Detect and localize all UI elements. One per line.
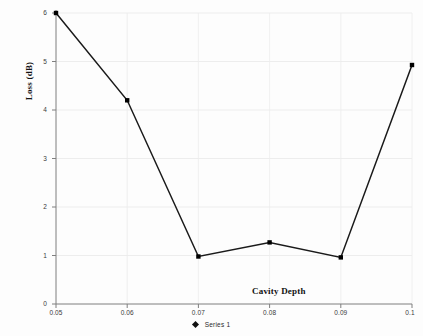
y-tick-label-2: 2	[33, 203, 47, 210]
x-tick-label-5: 0.1	[395, 309, 423, 316]
y-tick-label-4: 4	[33, 106, 47, 113]
plot-area	[0, 0, 423, 336]
x-tick-label-2: 0.07	[183, 309, 213, 316]
x-tick-label-3: 0.08	[255, 309, 285, 316]
x-axis-title: Cavity Depth	[252, 286, 306, 296]
series-1-markers	[54, 11, 414, 260]
series-1-line	[56, 13, 412, 257]
data-point	[196, 254, 200, 258]
y-tick-label-3: 3	[33, 155, 47, 162]
y-axis-title: Loss (dB)	[24, 46, 34, 116]
x-tick-label-4: 0.09	[326, 309, 356, 316]
data-point	[125, 98, 129, 102]
data-point	[267, 240, 271, 244]
x-axis-ticks	[56, 304, 412, 308]
x-tick-label-0: 0.05	[41, 309, 71, 316]
data-point	[339, 255, 343, 259]
y-tick-label-6: 6	[33, 9, 47, 16]
data-point	[410, 63, 414, 67]
y-axis-ticks	[52, 13, 56, 304]
legend-marker-icon	[192, 321, 199, 328]
y-tick-label-0: 0	[33, 300, 47, 307]
x-tick-label-1: 0.06	[112, 309, 142, 316]
data-point	[54, 11, 58, 15]
y-tick-label-5: 5	[33, 58, 47, 65]
line-chart: 6 5 4 3 2 1 0 0.05 0.06 0.07 0.08 0.09 0…	[0, 0, 423, 336]
chart-legend: Series 1	[0, 321, 423, 328]
legend-item-series-1: Series 1	[205, 321, 230, 328]
gridlines-horizontal	[56, 13, 412, 256]
y-tick-label-1: 1	[33, 252, 47, 259]
